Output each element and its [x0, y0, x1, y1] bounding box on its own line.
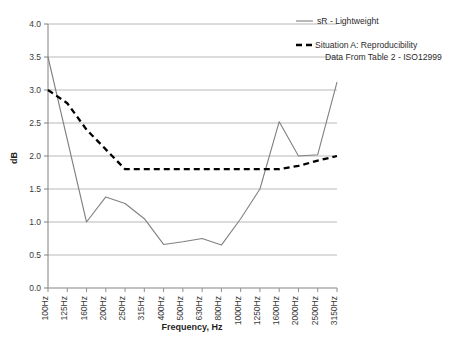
x-axis-title: Frequency, Hz — [162, 322, 223, 332]
legend-label-situation-a-line2: Data From Table 2 - ISO12999 — [325, 52, 442, 62]
y-axis-tick-label: 1.0 — [29, 217, 41, 227]
y-axis-tick-label: 2.0 — [29, 151, 41, 161]
x-axis-tick-label: 630Hz — [194, 296, 204, 321]
line-chart: 0.00.51.01.52.02.53.03.54.0 100Hz125Hz16… — [0, 0, 451, 344]
x-axis-tick-labels: 100Hz125Hz160Hz200Hz250Hz315Hz400Hz500Hz… — [40, 296, 339, 325]
y-axis-tick-label: 1.5 — [29, 184, 41, 194]
legend-label-situation-a-line1: Situation A: Reproducibility — [315, 40, 418, 50]
x-axis-tick-label: 400Hz — [156, 296, 166, 321]
x-axis-tick-label: 1600Hz — [271, 296, 281, 325]
legend-label-sr-lightweight: sR - Lightweight — [317, 16, 379, 26]
x-axis-tick-label: 2500Hz — [310, 296, 320, 325]
x-axis-tick-marks — [48, 288, 337, 292]
y-axis-tick-label: 0.0 — [29, 283, 41, 293]
y-axis-tick-labels: 0.00.51.01.52.02.53.03.54.0 — [29, 19, 41, 293]
x-axis-tick-label: 1000Hz — [233, 296, 243, 325]
series-line-sr-lightweight — [48, 57, 337, 245]
legend: sR - Lightweight Situation A: Reproducib… — [296, 16, 442, 62]
y-axis-title: dB — [9, 152, 19, 164]
y-axis-tick-label: 4.0 — [29, 19, 41, 29]
y-axis-tick-label: 0.5 — [29, 250, 41, 260]
chart-container: 0.00.51.01.52.02.53.03.54.0 100Hz125Hz16… — [0, 0, 451, 344]
x-axis-tick-label: 315Hz — [136, 296, 146, 321]
x-axis-tick-label: 200Hz — [98, 296, 108, 321]
x-axis-tick-label: 800Hz — [213, 296, 223, 321]
x-axis-tick-label: 160Hz — [79, 296, 89, 321]
x-axis-tick-label: 500Hz — [175, 296, 185, 321]
series-line-situation-a — [48, 90, 337, 169]
x-axis-tick-label: 2000Hz — [290, 296, 300, 325]
x-axis-tick-label: 250Hz — [117, 296, 127, 321]
y-axis-tick-label: 3.5 — [29, 52, 41, 62]
y-axis-tick-label: 2.5 — [29, 118, 41, 128]
y-axis-tick-label: 3.0 — [29, 85, 41, 95]
x-axis-tick-label: 100Hz — [40, 296, 50, 321]
gridlines — [44, 24, 337, 288]
x-axis-tick-label: 3150Hz — [329, 296, 339, 325]
x-axis-tick-label: 125Hz — [59, 296, 69, 321]
x-axis-tick-label: 1250Hz — [252, 296, 262, 325]
